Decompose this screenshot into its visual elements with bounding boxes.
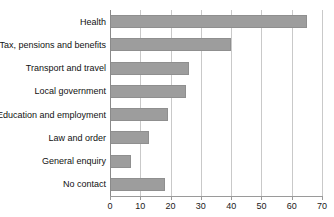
category-label: Tax, pensions and benefits xyxy=(0,39,106,50)
bar-row xyxy=(110,126,149,149)
gridline xyxy=(292,10,293,196)
bar-chart: 010203040506070 HealthTax, pensions and … xyxy=(0,0,334,217)
x-tick-mark xyxy=(110,196,111,200)
gridline xyxy=(231,10,232,196)
bar xyxy=(110,85,186,98)
x-tick-label: 10 xyxy=(135,201,145,212)
bar-row xyxy=(110,150,131,173)
x-tick-mark xyxy=(231,196,232,200)
category-label: Local government xyxy=(34,86,106,97)
bar xyxy=(110,131,149,144)
bar xyxy=(110,62,189,75)
x-tick-label: 20 xyxy=(166,201,176,212)
bar xyxy=(110,38,231,51)
category-label: No contact xyxy=(63,179,106,190)
y-axis-line xyxy=(110,10,111,197)
bar xyxy=(110,155,131,168)
x-tick-mark xyxy=(292,196,293,200)
bar xyxy=(110,108,168,121)
category-label: General enquiry xyxy=(42,156,106,167)
gridline xyxy=(261,10,262,196)
bar-row xyxy=(110,57,189,80)
bar xyxy=(110,178,165,191)
plot-area xyxy=(110,10,322,196)
x-tick-label: 60 xyxy=(287,201,297,212)
bar xyxy=(110,15,307,28)
bar-row xyxy=(110,103,168,126)
x-tick-mark xyxy=(140,196,141,200)
bar-row xyxy=(110,33,231,56)
category-label: Education and employment xyxy=(0,109,106,120)
x-tick-mark xyxy=(171,196,172,200)
bar-row xyxy=(110,10,307,33)
x-tick-label: 40 xyxy=(226,201,236,212)
category-label: Transport and travel xyxy=(26,63,106,74)
x-tick-label: 50 xyxy=(256,201,266,212)
category-label: Law and order xyxy=(48,132,106,143)
bar-row xyxy=(110,173,165,196)
x-tick-mark xyxy=(322,196,323,200)
category-label: Health xyxy=(80,16,106,27)
bar-row xyxy=(110,80,186,103)
x-tick-mark xyxy=(261,196,262,200)
x-tick-label: 0 xyxy=(107,201,112,212)
x-tick-label: 70 xyxy=(317,201,327,212)
x-tick-label: 30 xyxy=(196,201,206,212)
gridline xyxy=(322,10,323,196)
x-tick-mark xyxy=(201,196,202,200)
